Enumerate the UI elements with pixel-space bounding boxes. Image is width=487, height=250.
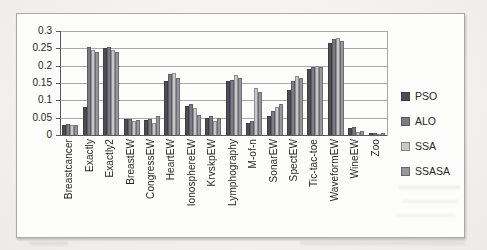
scan-bleed-artifact (403, 200, 458, 203)
legend-label: SSA (415, 140, 436, 152)
x-axis-label: Lymphography (227, 139, 238, 206)
y-tick-mark (56, 48, 60, 49)
y-tick-mark (56, 135, 60, 136)
legend-swatch-icon (401, 142, 410, 151)
x-axis-label: BreastEW (125, 139, 136, 185)
bar (217, 118, 221, 135)
y-axis-line (60, 31, 61, 136)
x-axis-label: Exactly (84, 139, 95, 172)
plot-right-border (387, 31, 388, 136)
x-axis-label: M-of-n (247, 139, 258, 169)
bar (136, 120, 140, 135)
x-axis-label: WineEW (349, 139, 360, 179)
y-tick-mark (56, 66, 60, 67)
x-axis-label: IonosphereEW (186, 139, 197, 206)
x-axis-label: SpectEW (288, 139, 299, 181)
bar-group-exactly (80, 31, 100, 135)
x-axis-label: Tic-tac-toe (308, 139, 319, 187)
bar (95, 52, 99, 135)
x-axis-label: Exactly2 (104, 139, 115, 178)
x-axis-label: Zoo (370, 139, 381, 157)
legend-label: PSO (415, 90, 437, 102)
bar-group-sonarew (264, 31, 284, 135)
y-tick-label: 0.15 (22, 77, 52, 89)
bar (74, 125, 78, 135)
scan-shadow-artifact (300, 241, 465, 245)
bar (115, 52, 119, 135)
legend-item-ssa: SSA (401, 140, 463, 152)
scan-shadow-artifact (30, 242, 68, 245)
legend-item-pso: PSO (401, 90, 463, 102)
gridline-0 (60, 135, 387, 136)
y-tick-label: 0.3 (22, 25, 52, 37)
y-tick-mark (56, 118, 60, 119)
x-axis-label: CongressEW (145, 139, 156, 199)
bar-group-breastcancer (60, 31, 80, 135)
bar (360, 131, 364, 135)
bar (340, 41, 344, 135)
x-axis-label: SonarEW (268, 139, 279, 183)
bar (156, 116, 160, 135)
legend-label: SSASA (415, 165, 450, 177)
bar (299, 78, 303, 135)
y-tick-mark (56, 31, 60, 32)
legend-item-alo: ALO (401, 115, 463, 127)
bar (238, 78, 242, 135)
bar-group-ionosphereew (183, 31, 203, 135)
scan-bleed-artifact (396, 214, 456, 217)
x-axis-label: Breastcancer (63, 139, 74, 199)
bar-group-spectew (285, 31, 305, 135)
legend-swatch-icon (401, 92, 410, 101)
bar-group-lymphography (224, 31, 244, 135)
bar-group-m-of-n (244, 31, 264, 135)
y-tick-label: 0.25 (22, 42, 52, 54)
legend-label: ALO (415, 115, 436, 127)
x-axis-label: WaveformEW (329, 139, 340, 201)
y-tick-mark (56, 100, 60, 101)
legend-item-ssasa: SSASA (401, 165, 463, 177)
scan-bleed-artifact (398, 186, 460, 189)
bar-group-heartew (162, 31, 182, 135)
bar (279, 104, 283, 135)
x-axis-label: KrvskpEW (206, 139, 217, 186)
bar (381, 133, 385, 135)
bar-group-tic-tac-toe (305, 31, 325, 135)
bar (176, 78, 180, 135)
chart-frame: 00.050.10.150.20.250.3 BreastcancerExact… (16, 13, 465, 238)
bar-group-congressew (142, 31, 162, 135)
y-tick-label: 0 (22, 129, 52, 141)
bar-group-breastew (121, 31, 141, 135)
legend-swatch-icon (401, 167, 410, 176)
legend: PSOALOSSASSASA (401, 90, 463, 177)
bar (319, 67, 323, 135)
bar-group-waveformew (326, 31, 346, 135)
bar-group-zoo (367, 31, 387, 135)
plot-area (60, 31, 387, 135)
y-tick-label: 0.05 (22, 112, 52, 124)
bar-group-wineew (346, 31, 366, 135)
bar (258, 92, 262, 135)
bar-group-exactly2 (101, 31, 121, 135)
y-tick-label: 0.1 (22, 94, 52, 106)
bar-group-krvskpew (203, 31, 223, 135)
x-axis-label: HeartEW (165, 139, 176, 180)
bar (197, 115, 201, 135)
legend-swatch-icon (401, 117, 410, 126)
y-tick-mark (56, 83, 60, 84)
y-tick-label: 0.2 (22, 60, 52, 72)
